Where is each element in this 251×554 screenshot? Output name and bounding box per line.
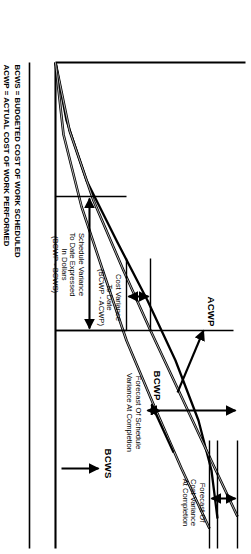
curve-label-bcwp: BCWP [150,370,161,400]
figure-canvas: Forecast Of Cost Variance At Completion … [0,0,251,554]
legend-line-bcws: BCWS = BUDGETED COST OF WORK SCHEDULED [11,64,22,257]
leader-arrow-acwp [177,330,203,392]
legend-line-acwp: ACWP = ACTUAL COST OF WORK PERFORMED [0,64,11,246]
annotation-forecast-schedule-variance: Forecast Of Schedule Variance At Complet… [124,358,141,466]
annotation-forecast-cost-variance: Forecast Of Cost Variance At Completion [180,474,206,530]
rotated-figure-group: Forecast Of Cost Variance At Completion … [0,0,251,554]
curve-label-acwp: ACWP [204,296,215,326]
chart-drawing [0,0,251,554]
curve-label-bcws: BCWS [101,448,112,478]
annotation-cost-variance-to-date: Cost Variance To Date (BCWP - ACWP) [96,252,122,342]
annotation-schedule-variance-to-date: Schedule Variance To Date Expressed In D… [50,204,84,324]
